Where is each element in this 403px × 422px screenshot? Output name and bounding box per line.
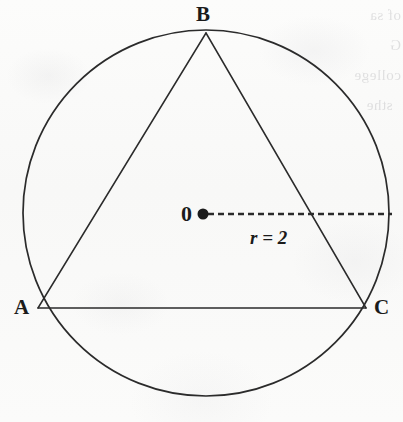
vertex-label-b: B <box>196 4 210 25</box>
center-label-origin: 0 <box>181 203 192 225</box>
figure-canvas: of sa G college sthe B A C 0 r = 2 <box>0 0 403 422</box>
triangle-side-bc <box>206 33 366 308</box>
center-point-dot <box>198 209 209 220</box>
vertex-label-a: A <box>14 297 29 318</box>
vertex-label-c: C <box>374 297 389 318</box>
triangle-side-ba <box>38 33 206 308</box>
radius-label: r = 2 <box>250 228 287 247</box>
geometry-figure <box>0 0 403 422</box>
